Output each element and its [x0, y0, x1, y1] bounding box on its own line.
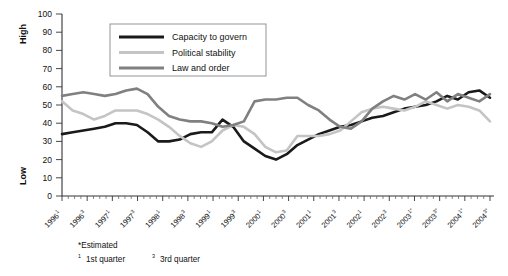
- y-tick-label: 10: [43, 173, 53, 183]
- x-tick-label: 20043*: [470, 207, 493, 230]
- x-tick-label: 20001: [243, 208, 265, 230]
- footnote-q1-marker: 1: [78, 253, 81, 259]
- x-tick-label: 20021: [344, 208, 366, 230]
- axis-end-labels: HighLow: [18, 24, 28, 185]
- x-tick-label: 19973: [117, 208, 139, 230]
- series-line-1: [62, 101, 490, 152]
- high-axis-label: High: [18, 24, 28, 44]
- y-tick-label: 0: [47, 191, 52, 201]
- legend-label-1: Political stability: [172, 48, 236, 58]
- footnote-q3-marker: 3: [152, 253, 155, 259]
- y-tick-label: 30: [43, 136, 53, 146]
- x-tick-label: 19971: [92, 208, 114, 230]
- y-tick-label: 50: [43, 100, 53, 110]
- x-tick-label: 19991: [193, 208, 215, 230]
- footnote-q3-text: 3rd quarter: [160, 255, 200, 264]
- y-tick-label: 70: [43, 64, 53, 74]
- x-tick-label: 20033*: [419, 207, 442, 230]
- x-tick-label: 19961: [42, 208, 64, 230]
- low-axis-label-text: Low: [18, 166, 28, 185]
- y-tick-label: 90: [43, 27, 53, 37]
- legend-label-0: Capacity to govern: [172, 32, 247, 42]
- legend-label-2: Law and order: [172, 63, 230, 73]
- chart-footnotes: *Estimated11st quarter33rd quarter: [78, 241, 200, 264]
- x-tick-label: 20013: [319, 208, 341, 230]
- x-tick-label: 19983: [168, 208, 190, 230]
- low-axis-label: Low: [18, 166, 28, 185]
- chart-legend: Capacity to governPolitical stabilityLaw…: [110, 24, 266, 76]
- x-tick-label: 20011: [293, 208, 315, 230]
- x-tick-label: 20031*: [394, 207, 417, 230]
- x-tick-label: 19963: [67, 208, 89, 230]
- line-chart: 1009080706050403020100 19961199631997119…: [0, 0, 508, 276]
- x-tick-label: 19993: [218, 208, 240, 230]
- y-tick-label: 80: [43, 45, 53, 55]
- y-axis-ticks: 1009080706050403020100: [38, 9, 62, 201]
- y-tick-label: 60: [43, 82, 53, 92]
- x-tick-label: 20041*: [444, 207, 467, 230]
- y-tick-label: 40: [43, 118, 53, 128]
- footnote-estimated: *Estimated: [78, 241, 118, 250]
- chart-container: 1009080706050403020100 19961199631997119…: [0, 0, 508, 276]
- data-series-group: [62, 89, 490, 160]
- high-axis-label-text: High: [18, 24, 28, 44]
- x-tick-label: 20003: [268, 208, 290, 230]
- footnote-q1-text: 1st quarter: [86, 255, 125, 264]
- x-tick-label: 20023: [369, 208, 391, 230]
- x-axis-ticks: 1996119963199711997319981199831999119993…: [42, 196, 493, 230]
- y-tick-label: 20: [43, 155, 53, 165]
- x-tick-label: 19981: [142, 208, 164, 230]
- y-tick-label: 100: [38, 9, 52, 19]
